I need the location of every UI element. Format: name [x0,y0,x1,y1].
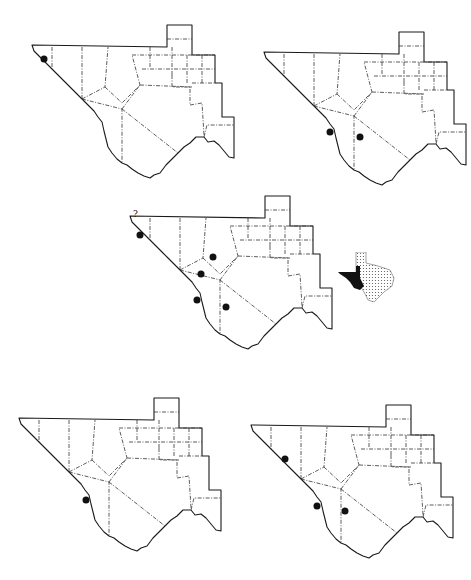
map-panel-top-right [264,32,471,192]
map-panel-bottom-right [251,405,461,565]
record-dot [223,304,230,311]
record-dot [210,254,217,261]
record-dot [314,503,321,510]
record-dot [83,497,90,504]
record-dot [282,456,289,463]
record-dot [357,134,364,141]
rest-of-texas [356,252,394,302]
texas-locator-inset [338,252,400,302]
map-panel-bottom-left [19,398,229,558]
record-dot [194,297,201,304]
uncertain-record-marker: ? [133,209,138,219]
record-dot [41,56,48,63]
record-dot [342,508,349,515]
record-dot [327,129,334,136]
map-panel-middle: ? [130,196,340,356]
map-panel-top-left [32,25,242,185]
record-dot [137,232,144,239]
record-dot [198,271,205,278]
